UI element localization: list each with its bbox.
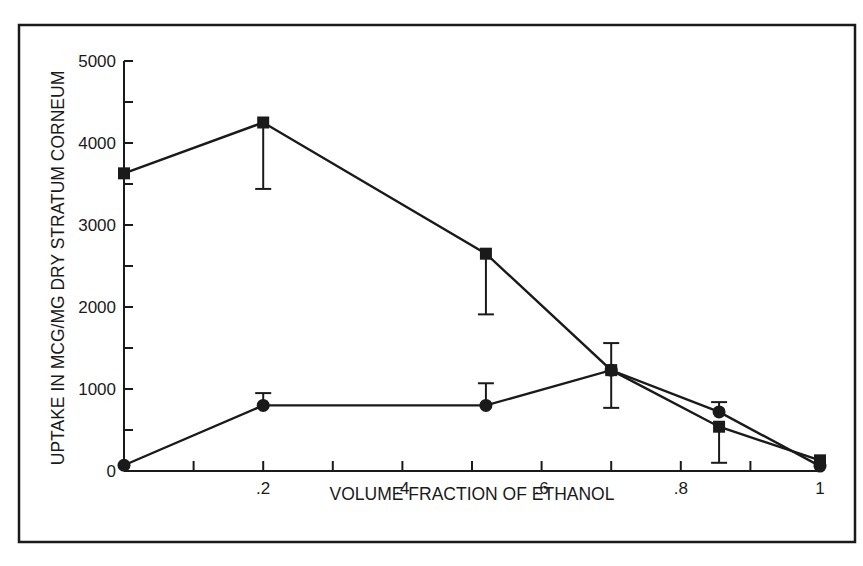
square-marker [480, 248, 492, 260]
circle-marker [713, 405, 726, 418]
x-axis-title: VOLUME FRACTION OF ETHANOL [330, 484, 615, 504]
series-circle [118, 343, 827, 473]
chart-frame [19, 25, 855, 542]
x-tick-label: .2 [256, 479, 270, 498]
circle-marker [605, 364, 618, 377]
y-tick-label: 1000 [78, 380, 116, 399]
series-layer [118, 117, 827, 473]
square-marker [257, 117, 269, 129]
square-marker [118, 167, 130, 179]
y-tick-label: 3000 [78, 216, 116, 235]
y-tick-label: 2000 [78, 298, 116, 317]
x-tick-label: .8 [674, 479, 688, 498]
series-line [124, 370, 820, 466]
y-tick-label: 4000 [78, 134, 116, 153]
chart: 010002000300040005000.2.4.6.81 VOLUME FR… [0, 0, 863, 566]
y-tick-label: 0 [107, 462, 116, 481]
y-tick-label: 5000 [78, 52, 116, 71]
circle-marker [479, 399, 492, 412]
circle-marker [118, 459, 131, 472]
circle-marker [814, 460, 827, 473]
circle-marker [257, 399, 270, 412]
x-tick-label: 1 [815, 479, 824, 498]
square-marker [713, 421, 725, 433]
y-axis-title: UPTAKE IN MCG/MG DRY STRATUM CORNEUM [48, 71, 68, 465]
axes: 010002000300040005000.2.4.6.81 [78, 52, 825, 498]
